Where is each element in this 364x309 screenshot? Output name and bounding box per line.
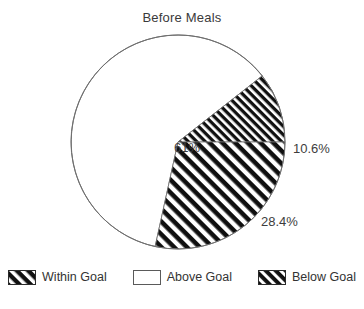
- dense-diagonal-hatch-swatch-icon: [258, 270, 286, 285]
- slice-label-within-goal: 28.4%: [258, 214, 301, 230]
- empty-white-swatch-icon: [133, 270, 161, 285]
- legend-label-above-goal: Above Goal: [167, 270, 232, 284]
- diagonal-hatch-swatch-icon: [8, 270, 36, 285]
- legend-item-below-goal[interactable]: Below Goal: [258, 270, 356, 285]
- pie-slice-within-goal[interactable]: [155, 142, 285, 249]
- pie-chart-figure: Before Meals: [0, 0, 364, 309]
- legend-label-within-goal: Within Goal: [42, 270, 107, 284]
- chart-title: Before Meals: [0, 10, 364, 25]
- legend-label-below-goal: Below Goal: [292, 270, 356, 284]
- pie-plot-area: 61% 10.6% 28.4%: [62, 30, 294, 256]
- chart-legend: Within Goal Above Goal Below Goal: [0, 264, 364, 290]
- legend-item-above-goal[interactable]: Above Goal: [133, 270, 232, 285]
- legend-item-within-goal[interactable]: Within Goal: [8, 270, 107, 285]
- slice-label-below-goal: 10.6%: [290, 141, 333, 157]
- slice-label-above-goal: 61%: [174, 140, 200, 155]
